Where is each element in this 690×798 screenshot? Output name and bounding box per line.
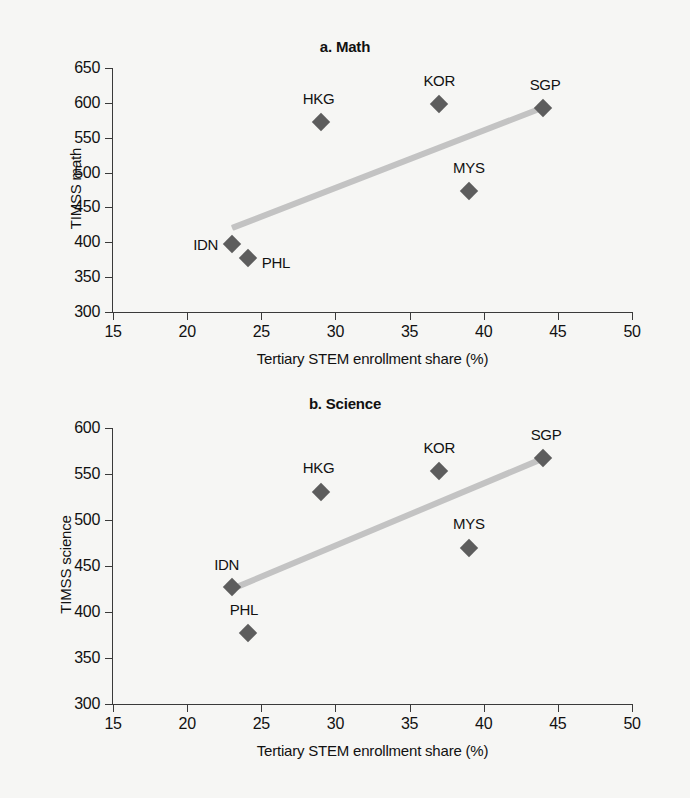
x-axis-title-math: Tertiary STEM enrollment share (%) [113, 350, 632, 367]
y-tick-math [105, 242, 113, 243]
y-tick-science [105, 658, 113, 659]
x-tick-math [410, 312, 411, 320]
x-tick-math [335, 312, 336, 320]
x-tick-math [187, 312, 188, 320]
y-tick-math [105, 103, 113, 104]
x-tick-label-science: 45 [549, 715, 566, 733]
data-label-kor-math: KOR [423, 72, 455, 89]
x-tick-label-science: 40 [475, 715, 492, 733]
y-tick-label-math: 600 [74, 94, 100, 112]
y-tick-science [105, 566, 113, 567]
y-tick-label-math: 350 [74, 268, 100, 286]
y-tick-label-science: 500 [74, 511, 100, 529]
x-tick-label-math: 15 [104, 323, 121, 341]
plot-area-math: TIMSS math Tertiary STEM enrollment shar… [112, 68, 632, 313]
data-label-phl-math: PHL [262, 253, 290, 270]
y-tick-math [105, 207, 113, 208]
y-tick-label-science: 350 [74, 649, 100, 667]
x-axis-title-science: Tertiary STEM enrollment share (%) [113, 742, 632, 759]
y-tick-label-science: 600 [74, 419, 100, 437]
data-label-kor-science: KOR [423, 439, 455, 456]
chart-title-science: b. Science [0, 395, 690, 412]
y-tick-label-math: 450 [74, 198, 100, 216]
x-tick-label-math: 35 [401, 323, 418, 341]
x-tick-label-science: 35 [401, 715, 418, 733]
y-tick-label-science: 450 [74, 557, 100, 575]
y-tick-label-math: 500 [74, 164, 100, 182]
data-label-phl-science: PHL [230, 601, 258, 618]
data-label-sgp-science: SGP [531, 426, 562, 443]
data-label-idn-math: IDN [193, 235, 218, 252]
y-tick-label-science: 400 [74, 603, 100, 621]
x-tick-label-math: 30 [327, 323, 344, 341]
x-tick-label-science: 15 [104, 715, 121, 733]
y-tick-label-math: 650 [74, 59, 100, 77]
y-tick-label-science: 300 [74, 695, 100, 713]
y-axis-title-science: TIMSS science [57, 485, 74, 645]
x-tick-science [558, 704, 559, 712]
data-label-hkg-math: HKG [303, 90, 335, 107]
x-tick-science [335, 704, 336, 712]
x-tick-label-science: 25 [253, 715, 270, 733]
x-tick-label-math: 25 [253, 323, 270, 341]
y-tick-label-science: 550 [74, 465, 100, 483]
data-label-idn-science: IDN [214, 556, 239, 573]
x-tick-label-science: 50 [623, 715, 640, 733]
x-tick-label-science: 20 [179, 715, 196, 733]
y-tick-math [105, 277, 113, 278]
plot-area-science: TIMSS science Tertiary STEM enrollment s… [112, 428, 632, 705]
y-tick-math [105, 173, 113, 174]
y-tick-math [105, 312, 113, 313]
figure-root: { "figure": { "background_color": "#f6f6… [0, 0, 690, 798]
x-tick-label-math: 40 [475, 323, 492, 341]
x-tick-math [484, 312, 485, 320]
chart-title-math: a. Math [0, 38, 690, 55]
data-label-sgp-math: SGP [530, 75, 561, 92]
x-tick-science [484, 704, 485, 712]
y-tick-label-math: 550 [74, 129, 100, 147]
y-tick-science [105, 612, 113, 613]
y-tick-science [105, 704, 113, 705]
chart-panel-science: b. Science TIMSS science Tertiary STEM e… [0, 390, 690, 798]
x-tick-label-math: 45 [549, 323, 566, 341]
data-label-mys-science: MYS [453, 514, 485, 531]
x-tick-math [632, 312, 633, 320]
x-tick-label-math: 20 [179, 323, 196, 341]
y-tick-math [105, 138, 113, 139]
x-tick-math [261, 312, 262, 320]
y-tick-science [105, 428, 113, 429]
x-tick-label-math: 50 [623, 323, 640, 341]
y-tick-label-math: 400 [74, 233, 100, 251]
x-tick-science [261, 704, 262, 712]
data-label-hkg-science: HKG [303, 459, 335, 476]
y-tick-label-math: 300 [74, 303, 100, 321]
y-tick-science [105, 520, 113, 521]
x-tick-science [113, 704, 114, 712]
x-tick-science [187, 704, 188, 712]
plot-background-science [113, 428, 632, 704]
x-tick-science [632, 704, 633, 712]
x-tick-label-science: 30 [327, 715, 344, 733]
x-tick-math [113, 312, 114, 320]
y-tick-science [105, 474, 113, 475]
chart-panel-math: a. Math TIMSS math Tertiary STEM enrollm… [0, 0, 690, 399]
x-tick-math [558, 312, 559, 320]
x-tick-science [410, 704, 411, 712]
data-label-mys-math: MYS [453, 158, 485, 175]
plot-background-math [113, 68, 632, 312]
y-tick-math [105, 68, 113, 69]
